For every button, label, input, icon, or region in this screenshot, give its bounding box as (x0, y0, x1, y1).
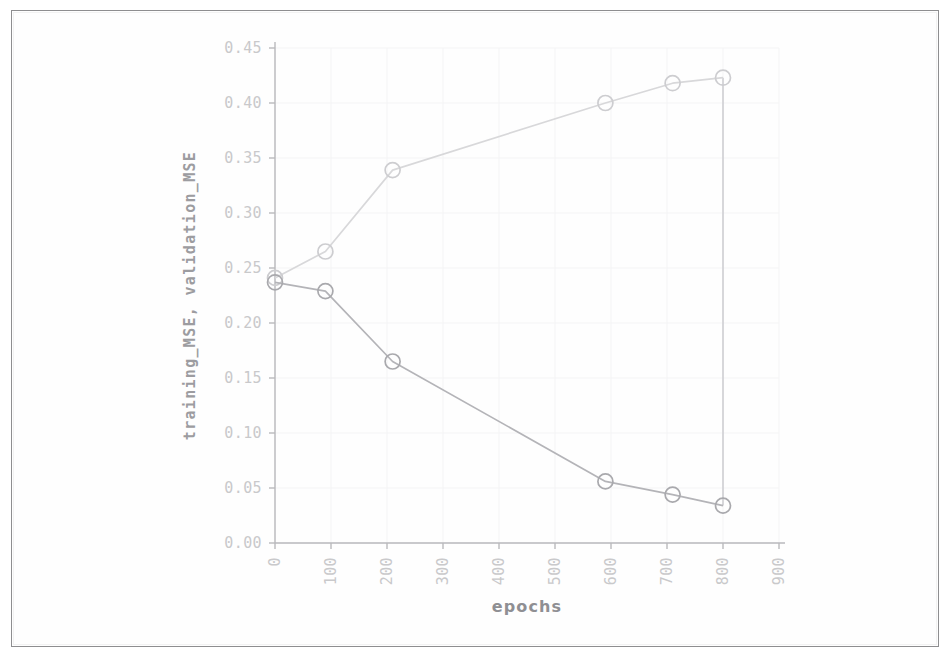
y-tick-labels: 0.000.050.100.150.200.250.300.350.400.45 (224, 39, 262, 552)
x-tick-label: 900 (770, 557, 788, 585)
grid-lines (275, 48, 779, 543)
y-tick-label: 0.25 (224, 259, 262, 277)
y-tick-label: 0.45 (224, 39, 262, 57)
x-tick-label: 200 (378, 557, 396, 585)
axes (269, 42, 785, 549)
y-tick-label: 0.20 (224, 314, 262, 332)
y-axis-title: training_MSE, validation_MSE (181, 151, 199, 440)
figure-page: 0100200300400500600700800900 0.000.050.1… (0, 0, 952, 664)
x-tick-label: 100 (322, 557, 340, 585)
y-tick-label: 0.40 (224, 94, 262, 112)
x-tick-label: 400 (490, 557, 508, 585)
x-tick-label: 600 (602, 557, 620, 585)
y-tick-label: 0.30 (224, 204, 262, 222)
x-tick-label: 800 (714, 557, 732, 585)
y-tick-label: 0.35 (224, 149, 262, 167)
x-tick-label: 500 (546, 557, 564, 585)
y-tick-label: 0.15 (224, 369, 262, 387)
x-tick-label: 300 (434, 557, 452, 585)
x-tick-label: 700 (658, 557, 676, 585)
x-tick-label: 0 (266, 557, 284, 566)
x-axis-title: epochs (492, 597, 562, 616)
y-tick-label: 0.05 (224, 479, 262, 497)
y-tick-label: 0.00 (224, 534, 262, 552)
y-tick-label: 0.10 (224, 424, 262, 442)
x-tick-labels: 0100200300400500600700800900 (266, 557, 788, 585)
plot-canvas: 0100200300400500600700800900 0.000.050.1… (0, 0, 952, 664)
line-chart: 0100200300400500600700800900 0.000.050.1… (0, 0, 952, 664)
